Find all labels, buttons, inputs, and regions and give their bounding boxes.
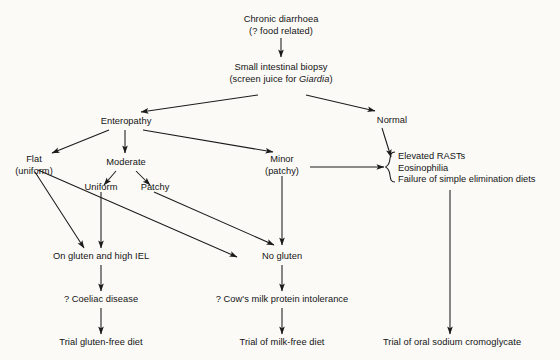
edge-biopsy-to-enteropathy (141, 95, 258, 112)
node-minor-patchy: Minor (patchy) (265, 154, 299, 177)
node-small-intestinal-biopsy: Small intestinal biopsy (screen juice fo… (229, 62, 332, 85)
node-no-gluten: No gluten (262, 251, 302, 263)
list-item-eosinophilia: Eosinophilia (398, 163, 535, 175)
list-item-failure-elimination: Failure of simple elimination diets (398, 174, 535, 186)
edge-biopsy-to-normal (306, 95, 375, 111)
node-uniform: Uniform (85, 182, 118, 194)
edge-flat-to-no-gluten (38, 170, 237, 257)
flat-line2: (uniform) (15, 166, 53, 178)
minor-line1: Minor (265, 154, 299, 166)
flat-line1: Flat (15, 154, 53, 166)
node-coeliac-disease: ? Coeliac disease (64, 294, 138, 306)
node-normal: Normal (377, 115, 407, 127)
node-flat-uniform: Flat (uniform) (15, 154, 53, 177)
edge-enteropathy-to-flat (52, 130, 109, 153)
flowchart-canvas: Chronic diarrhoea (? food related) Small… (0, 0, 560, 360)
atopy-findings-list: Elevated RASTs Eosinophilia Failure of s… (398, 151, 535, 186)
edge-patchy-to-no-gluten (154, 192, 274, 245)
chronic-diarrhoea-line1: Chronic diarrhoea (244, 14, 319, 26)
biopsy-line2-prefix: (screen juice for (229, 74, 299, 84)
node-moderate: Moderate (106, 157, 146, 169)
giardia-italic: Giardia (299, 74, 329, 84)
node-trial-oral-sodium-cromoglycate: Trial of oral sodium cromoglycate (383, 337, 521, 349)
biopsy-line1: Small intestinal biopsy (229, 62, 332, 74)
minor-line2: (patchy) (265, 166, 299, 178)
node-trial-milk-free-diet: Trial of milk-free diet (239, 337, 324, 349)
node-chronic-diarrhoea: Chronic diarrhoea (? food related) (244, 14, 319, 37)
edge-enteropathy-to-minor (143, 130, 273, 152)
chronic-diarrhoea-line2: (? food related) (244, 26, 319, 38)
node-on-gluten-high-iel: On gluten and high IEL (53, 251, 149, 263)
node-patchy: Patchy (141, 182, 170, 194)
node-cows-milk-intolerance: ? Cow's milk protein intolerance (216, 294, 349, 306)
node-trial-gluten-free-diet: Trial gluten-free diet (59, 337, 142, 349)
edge-flat-to-on-gluten (35, 172, 84, 248)
biopsy-line2: (screen juice for Giardia) (229, 74, 332, 86)
edge-normal-to-atopy-list (382, 128, 391, 157)
biopsy-line2-suffix: ) (329, 74, 332, 84)
list-item-elevated-rasts: Elevated RASTs (398, 151, 535, 163)
node-enteropathy: Enteropathy (101, 116, 152, 128)
